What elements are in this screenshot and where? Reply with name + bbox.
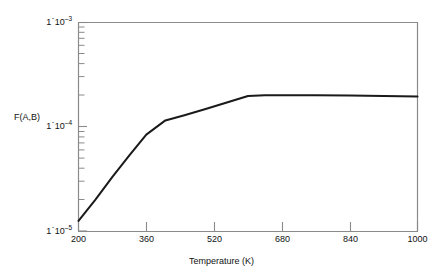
y-axis-tick-label-1e-3: 1·10–3 <box>18 17 72 27</box>
x-axis-tick-label-200: 200 <box>57 234 101 244</box>
x-axis-tick-label-840: 840 <box>329 234 373 244</box>
chart-figure: 1·10–3 1·10–4 1·10–5 200 360 520 680 840… <box>0 0 443 278</box>
x-axis-ticks <box>79 222 418 231</box>
x-axis-tick-label-680: 680 <box>261 234 305 244</box>
x-axis-title: Temperature (K) <box>0 256 443 266</box>
data-series-line <box>79 95 418 221</box>
x-axis-tick-label-520: 520 <box>193 234 237 244</box>
y-axis-tick-label-1e-4: 1·10–4 <box>18 121 72 131</box>
x-axis-tick-label-1000: 1000 <box>396 234 440 244</box>
y-axis-minor-ticks <box>79 27 85 200</box>
x-axis-tick-label-360: 360 <box>125 234 169 244</box>
plot-frame <box>78 22 418 232</box>
y-axis-title: F(A,B) <box>14 112 40 122</box>
